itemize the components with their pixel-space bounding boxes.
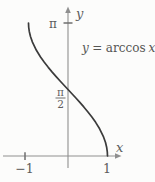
pi-tick-label: π (49, 17, 57, 31)
equation-label: y=arccosx (81, 41, 155, 55)
neg1-tick-label: −1 (15, 161, 33, 176)
plot-canvas: y x π π 2 −1 1 y=arccosx (0, 0, 155, 182)
one-tick-label: 1 (103, 161, 111, 176)
pi-over-2-numerator: π (57, 86, 64, 98)
equation-variable: x (149, 41, 155, 55)
equation-lhs: y (81, 41, 89, 55)
equation-equals: = (92, 41, 102, 55)
pi-over-2-label: π 2 (56, 86, 66, 111)
x-axis-label: x (116, 140, 124, 155)
pi-over-2-denominator: 2 (57, 98, 64, 110)
arccos-plot: y x π π 2 −1 1 y=arccosx (0, 0, 155, 182)
y-axis-label: y (75, 6, 84, 21)
y-axis-arrowhead (65, 7, 71, 14)
equation-function: arccos (106, 41, 146, 55)
